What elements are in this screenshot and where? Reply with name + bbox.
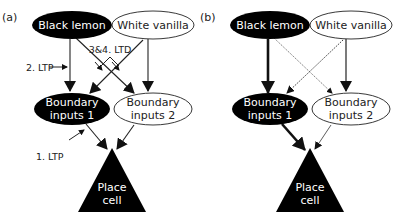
node-place-cell-b: Place cell <box>276 148 344 212</box>
panel-b-label: (b) <box>200 11 216 24</box>
node-boundary2-label-2: inputs 2 <box>329 109 374 122</box>
node-boundary2-a: Boundary inputs 2 <box>114 93 192 125</box>
node-white-vanilla-b: White vanilla <box>310 11 392 39</box>
panel-a: (a) Black lemon White <box>2 11 194 212</box>
node-black-lemon-label: Black lemon <box>38 19 106 32</box>
edge-boundary2-placecell <box>117 125 134 149</box>
ltp1-arrow <box>69 130 84 140</box>
node-place-cell-label-2: cell <box>103 194 122 207</box>
node-boundary1-label-1: Boundary <box>46 96 99 109</box>
figure: (a) Black lemon White <box>0 0 396 222</box>
edge-whitevanilla-boundary1-weak <box>287 40 343 93</box>
node-boundary1-label-2: inputs 1 <box>50 109 95 122</box>
edge-blacklemon-boundary2-weak <box>274 38 332 93</box>
edge-boundary2-placecell-weak <box>315 125 331 149</box>
node-boundary1-b: Boundary inputs 1 <box>232 93 308 125</box>
node-black-lemon-label: Black lemon <box>236 19 304 32</box>
node-place-cell-a: Place cell <box>78 148 146 212</box>
node-boundary2-label-2: inputs 2 <box>131 109 176 122</box>
node-white-vanilla-label: White vanilla <box>117 19 189 32</box>
ltd-arrow-left <box>95 62 102 70</box>
node-place-cell-label-1: Place <box>295 181 324 194</box>
node-boundary1-label-2: inputs 1 <box>248 109 293 122</box>
node-boundary2-label-1: Boundary <box>325 96 378 109</box>
diagram-canvas: (a) Black lemon White <box>0 0 396 222</box>
annotation-ltp-1: 1. LTP <box>36 151 64 162</box>
node-boundary1-a: Boundary inputs 1 <box>34 93 110 125</box>
node-place-cell-label-1: Place <box>97 181 126 194</box>
node-place-cell-label-2: cell <box>301 194 320 207</box>
annotation-ltp-2: 2. LTP <box>26 62 54 73</box>
annotation-ltd: 3&4. LTD <box>89 44 132 55</box>
panel-b: (b) Black lemon White vanilla Boundary i… <box>200 11 392 212</box>
node-black-lemon-a: Black lemon <box>32 11 112 39</box>
node-boundary1-label-1: Boundary <box>244 96 297 109</box>
node-black-lemon-b: Black lemon <box>230 11 310 39</box>
edge-boundary1-placecell <box>86 124 107 149</box>
panel-a-label: (a) <box>2 11 17 24</box>
node-white-vanilla-label: White vanilla <box>315 19 387 32</box>
node-boundary2-b: Boundary inputs 2 <box>312 93 390 125</box>
edge-boundary1-placecell-strong <box>282 124 305 150</box>
node-boundary2-label-1: Boundary <box>127 96 180 109</box>
node-white-vanilla-a: White vanilla <box>112 11 194 39</box>
